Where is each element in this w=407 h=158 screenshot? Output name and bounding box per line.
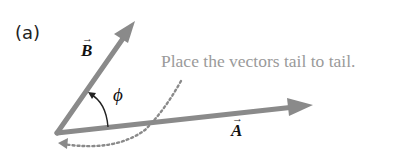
vector-arrow-icon: → (232, 112, 243, 124)
vector-b-label: → B (81, 41, 92, 61)
instruction-text: Place the vectors tail to tail. (161, 51, 355, 72)
angle-label-phi: ϕ (113, 84, 123, 106)
vector-a (57, 98, 313, 133)
vector-diagram (0, 0, 407, 158)
angle-arc (88, 92, 108, 127)
vector-arrow-icon: → (82, 32, 93, 44)
vector-b (57, 21, 135, 133)
vector-a-label: → A (231, 121, 242, 141)
